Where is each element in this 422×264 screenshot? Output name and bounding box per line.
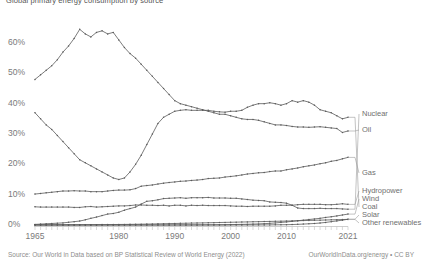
data-point <box>85 162 87 164</box>
data-point <box>303 126 305 128</box>
data-point <box>269 102 271 104</box>
data-point <box>342 214 344 216</box>
legend-item-gas[interactable]: Gas <box>362 169 376 177</box>
data-point <box>330 208 332 210</box>
data-point <box>241 205 243 207</box>
data-point <box>101 171 103 173</box>
legend-item-nuclear[interactable]: Nuclear <box>362 110 388 118</box>
data-point <box>308 101 310 103</box>
data-point <box>269 221 271 223</box>
data-point <box>275 202 277 204</box>
data-point <box>219 177 221 179</box>
data-point <box>79 159 81 161</box>
data-point <box>325 222 327 224</box>
data-point <box>73 221 75 223</box>
data-point <box>213 197 215 199</box>
data-point <box>314 164 316 166</box>
data-point <box>163 223 165 225</box>
data-point <box>224 222 226 224</box>
data-point <box>62 222 64 224</box>
data-point <box>342 158 344 160</box>
data-point <box>330 221 332 223</box>
data-point <box>135 57 137 59</box>
data-point <box>325 204 327 206</box>
data-point <box>79 190 81 192</box>
data-point <box>90 36 92 38</box>
data-point <box>57 222 59 224</box>
data-point <box>40 224 42 226</box>
data-point <box>168 205 170 207</box>
data-point <box>51 224 53 226</box>
data-point <box>129 224 131 226</box>
data-point <box>263 224 265 226</box>
data-point <box>135 204 137 206</box>
data-point <box>124 205 126 207</box>
data-point <box>68 147 70 149</box>
data-point <box>224 176 226 178</box>
data-point <box>152 223 154 225</box>
data-point <box>314 204 316 206</box>
data-point <box>51 191 53 193</box>
data-point <box>219 197 221 199</box>
data-point <box>213 224 215 226</box>
data-point <box>68 222 70 224</box>
data-point <box>129 171 131 173</box>
data-point <box>308 208 310 210</box>
data-point <box>96 216 98 218</box>
data-point <box>263 103 265 105</box>
data-point <box>180 205 182 207</box>
data-point <box>107 224 109 226</box>
data-point <box>213 112 215 114</box>
data-point <box>196 205 198 207</box>
data-point <box>96 168 98 170</box>
data-point <box>68 224 70 226</box>
attribution-note[interactable]: OurWorldInData.org/energy • CC BY <box>309 251 414 258</box>
data-point <box>90 224 92 226</box>
source-note: Source: Our World in Data based on BP St… <box>8 251 245 258</box>
data-point <box>113 213 115 215</box>
data-point <box>113 32 115 34</box>
data-point <box>146 70 148 72</box>
data-point <box>252 224 254 226</box>
legend-item-oil[interactable]: Oil <box>362 126 371 134</box>
data-point <box>308 220 310 222</box>
data-point <box>319 208 321 210</box>
data-point <box>45 206 47 208</box>
data-point <box>325 111 327 113</box>
data-point <box>146 201 148 203</box>
data-point <box>163 198 165 200</box>
data-point <box>174 197 176 199</box>
data-point <box>241 198 243 200</box>
data-point <box>230 115 232 117</box>
data-point <box>40 118 42 120</box>
data-point <box>258 221 260 223</box>
data-point <box>51 65 53 67</box>
data-point <box>252 199 254 201</box>
data-point <box>330 161 332 163</box>
series-line-coal <box>35 101 348 180</box>
data-point <box>129 189 131 191</box>
data-point <box>174 111 176 113</box>
data-point <box>118 179 120 181</box>
data-point <box>319 222 321 224</box>
chart-plot-area <box>0 0 422 264</box>
data-point <box>330 219 332 221</box>
data-point <box>168 224 170 226</box>
data-point <box>275 222 277 224</box>
data-point <box>202 179 204 181</box>
data-point <box>191 110 193 112</box>
data-point <box>342 203 344 205</box>
data-point <box>297 101 299 103</box>
data-point <box>269 223 271 225</box>
data-point <box>286 169 288 171</box>
axis-layer <box>34 227 348 231</box>
data-point <box>107 213 109 215</box>
data-point <box>291 224 293 226</box>
data-point <box>79 224 81 226</box>
data-point <box>34 224 36 226</box>
data-point <box>336 160 338 162</box>
data-point <box>291 168 293 170</box>
data-point <box>168 223 170 225</box>
data-point <box>213 205 215 207</box>
legend-item-other-renewables[interactable]: Other renewables <box>362 219 421 227</box>
